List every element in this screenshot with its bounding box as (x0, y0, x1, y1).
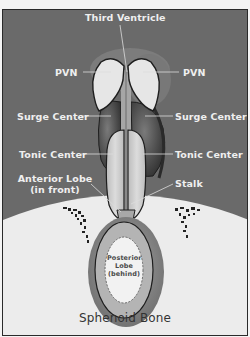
diagram-frame: Third Ventricle PVN PVN Surge Center Sur… (2, 9, 248, 336)
label-pvn-left: PVN (55, 67, 78, 78)
label-surge-center-right: Surge Center (175, 111, 247, 122)
label-posterior-lobe: Posterior Lobe (behind) (107, 254, 141, 278)
label-sphenoid-bone: Sphenoid Bone (73, 313, 177, 324)
label-stalk: Stalk (175, 178, 203, 189)
label-tonic-center-left: Tonic Center (19, 149, 87, 160)
label-third-ventricle: Third Ventricle (85, 12, 163, 23)
tonic-center-right (128, 130, 146, 220)
label-tonic-center-right: Tonic Center (175, 149, 243, 160)
label-pvn-right: PVN (183, 67, 206, 78)
label-anterior-lobe: Anterior Lobe (in front) (17, 173, 93, 195)
label-surge-center-left: Surge Center (17, 111, 89, 122)
